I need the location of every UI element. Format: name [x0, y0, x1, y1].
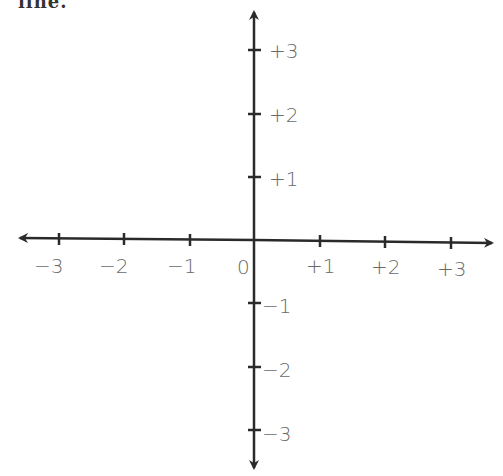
- y-label-pos3: +3: [269, 39, 298, 63]
- coordinate-plane: −3 −2 −1 0 +1 +2 +3 +3 +2 +1 −1 −2 −3: [0, 0, 503, 476]
- x-label-neg1: −1: [167, 254, 196, 278]
- origin-label: 0: [237, 255, 250, 279]
- y-label-neg1: −1: [262, 294, 291, 318]
- y-label-neg2: −2: [262, 358, 291, 382]
- x-label-pos3: +3: [437, 257, 466, 281]
- x-label-pos1: +1: [306, 254, 335, 278]
- y-label-pos2: +2: [269, 103, 298, 127]
- y-label-pos1: +1: [269, 167, 298, 191]
- x-axis: [20, 238, 254, 240]
- x-label-pos2: +2: [371, 255, 400, 279]
- x-label-neg3: −3: [34, 254, 63, 278]
- x-label-neg2: −2: [99, 254, 128, 278]
- y-label-neg3: −3: [262, 422, 291, 446]
